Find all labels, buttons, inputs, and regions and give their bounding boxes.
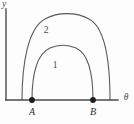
point-b-dot — [90, 97, 96, 103]
figure-container: y θ 2 1 A B — [0, 0, 134, 124]
point-a-label: A — [28, 106, 36, 117]
curve-2-label: 2 — [44, 25, 49, 35]
curve-2-path — [22, 14, 110, 100]
point-b-label: B — [90, 106, 96, 117]
two-arch-curves-diagram: y θ 2 1 A B — [0, 0, 134, 124]
curve-1-label: 1 — [53, 60, 58, 70]
curve-1-path — [32, 45, 93, 100]
point-a-dot — [29, 97, 35, 103]
y-axis-label: y — [1, 0, 7, 9]
theta-axis-label: θ — [124, 92, 129, 102]
